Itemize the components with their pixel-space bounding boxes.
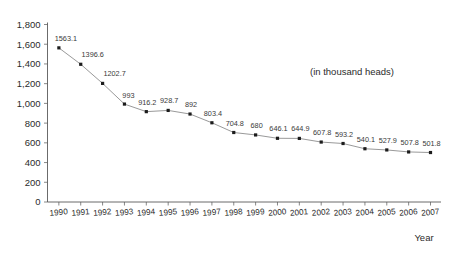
x-axis-tick-label: 2004 <box>355 207 374 218</box>
x-axis-tick-marks <box>59 202 431 206</box>
y-axis-tick-label: 1,600 <box>17 39 41 50</box>
data-point-label: 993 <box>122 91 134 100</box>
data-point-labels: 1563.11396.61202.7993916.2928.7892803.47… <box>55 34 441 148</box>
x-axis-tick-label: 1998 <box>224 207 243 218</box>
y-axis-tick-label: 200 <box>25 177 41 188</box>
data-point-label: 680 <box>251 121 263 130</box>
line-chart: 02004006008001,0001,2001,4001,6001,800 1… <box>0 0 457 255</box>
x-axis-tick-label: 1995 <box>158 207 177 218</box>
data-point-label: 704.8 <box>226 119 244 128</box>
data-point-marker <box>232 131 235 134</box>
data-point-label: 644.9 <box>291 124 309 133</box>
x-axis-tick-label: 2003 <box>333 207 352 218</box>
data-point-marker <box>123 102 126 105</box>
x-axis-tick-label: 1996 <box>180 207 199 218</box>
data-point-marker <box>320 140 323 143</box>
data-point-label: 593.2 <box>335 130 353 139</box>
data-point-label: 916.2 <box>138 98 156 107</box>
data-point-marker <box>363 147 366 150</box>
x-axis-tick-label: 2007 <box>421 207 440 218</box>
data-point-marker <box>210 121 213 124</box>
data-point-marker <box>188 112 191 115</box>
x-axis-tick-label: 1997 <box>202 207 221 218</box>
x-axis-tick-label: 2000 <box>268 207 287 218</box>
y-axis-tick-label: 0 <box>35 196 40 207</box>
data-point-marker <box>167 109 170 112</box>
y-axis-tick-label: 1,800 <box>17 19 41 30</box>
x-axis-tick-label: 1990 <box>49 207 68 218</box>
chart-canvas: 02004006008001,0001,2001,4001,6001,800 1… <box>0 0 457 255</box>
x-axis-tick-label: 1992 <box>93 207 112 218</box>
data-series-markers <box>57 46 432 154</box>
x-axis-title: Year <box>414 232 433 243</box>
x-axis-tick-label: 2001 <box>290 207 309 218</box>
data-point-marker <box>79 63 82 66</box>
y-axis-tick-label: 1,000 <box>17 98 41 109</box>
data-point-label: 1202.7 <box>103 69 125 78</box>
units-annotation: (in thousand heads) <box>310 66 394 77</box>
data-point-marker <box>254 133 257 136</box>
y-axis-tick-label: 800 <box>25 118 41 129</box>
data-point-label: 527.9 <box>379 136 397 145</box>
x-axis-tick-label: 1993 <box>115 207 134 218</box>
data-point-label: 1563.1 <box>55 34 77 43</box>
data-point-marker <box>429 151 432 154</box>
data-point-marker <box>341 142 344 145</box>
data-point-marker <box>276 137 279 140</box>
x-axis-tick-label: 1999 <box>246 207 265 218</box>
y-axis-tick-label: 400 <box>25 157 41 168</box>
data-point-label: 540.1 <box>357 135 375 144</box>
data-point-label: 928.7 <box>160 96 178 105</box>
data-point-label: 803.4 <box>204 109 222 118</box>
data-point-marker <box>101 82 104 85</box>
data-point-label: 1396.6 <box>82 50 104 59</box>
data-point-marker <box>407 150 410 153</box>
x-axis-tick-labels: 1990199119921993199419951996199719981999… <box>49 207 440 218</box>
x-axis-tick-label: 2006 <box>399 207 418 218</box>
y-axis-tick-label: 600 <box>25 137 41 148</box>
data-point-label: 507.8 <box>401 138 419 147</box>
data-point-label: 501.8 <box>422 139 440 148</box>
y-axis-tick-marks <box>44 25 48 203</box>
x-axis-tick-label: 2002 <box>312 207 331 218</box>
data-point-label: 607.8 <box>313 128 331 137</box>
x-axis-tick-label: 1991 <box>71 207 90 218</box>
data-point-marker <box>145 110 148 113</box>
data-point-marker <box>57 46 60 49</box>
data-point-label: 892 <box>185 100 197 109</box>
x-axis-tick-label: 2005 <box>377 207 396 218</box>
data-point-marker <box>385 148 388 151</box>
y-axis-tick-label: 1,200 <box>17 78 41 89</box>
y-axis-tick-label: 1,400 <box>17 58 41 69</box>
x-axis-tick-label: 1994 <box>137 207 156 218</box>
data-point-label: 646.1 <box>269 124 287 133</box>
y-axis-tick-labels: 02004006008001,0001,2001,4001,6001,800 <box>17 19 41 208</box>
data-point-marker <box>298 137 301 140</box>
